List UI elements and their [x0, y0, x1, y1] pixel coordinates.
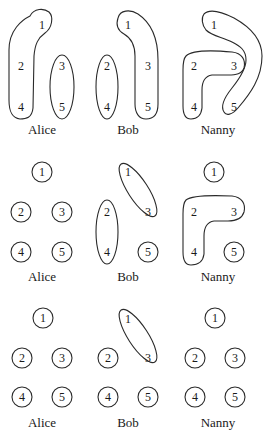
bob-cell-1-3-5	[117, 11, 158, 119]
state-4: 4	[105, 390, 111, 404]
agent-label-alice: Alice	[28, 415, 56, 430]
state-4: 4	[18, 100, 24, 114]
state-4: 4	[18, 245, 24, 259]
state-5: 5	[145, 245, 151, 259]
state-2: 2	[105, 351, 111, 365]
bob-cell-1-3	[113, 305, 164, 368]
agent-label-nanny: Nanny	[201, 415, 236, 430]
state-5: 5	[231, 100, 237, 114]
state-5: 5	[59, 245, 65, 259]
state-1: 1	[125, 165, 131, 179]
nanny-panel-row-2: 1 2 3 4 5 Nanny	[183, 162, 245, 284]
partition-diagram: 1 2 3 4 5 Alice 1 2 3 4 5 Bob 1 2 3 4 5	[0, 0, 272, 440]
state-4: 4	[104, 245, 110, 259]
bob-panel-row-3: 1 2 3 4 5 Bob	[98, 305, 163, 430]
agent-label-alice: Alice	[28, 269, 56, 284]
state-4: 4	[192, 390, 198, 404]
state-3: 3	[145, 205, 151, 219]
state-4: 4	[191, 100, 197, 114]
state-3: 3	[145, 59, 151, 73]
state-1: 1	[125, 18, 131, 32]
state-2: 2	[192, 351, 198, 365]
state-3: 3	[231, 205, 237, 219]
state-1: 1	[211, 165, 217, 179]
state-5: 5	[59, 390, 65, 404]
state-5: 5	[232, 390, 238, 404]
alice-panel-row-1: 1 2 3 4 5 Alice	[9, 9, 74, 137]
state-1: 1	[40, 311, 46, 325]
bob-panel-row-2: 1 2 3 4 5 Bob	[96, 159, 163, 284]
state-3: 3	[59, 59, 65, 73]
state-3: 3	[59, 351, 65, 365]
alice-cell-1-2-4	[9, 9, 52, 119]
nanny-panel-row-3: 1 2 3 4 5 Nanny	[185, 308, 245, 430]
agent-label-bob: Bob	[117, 269, 139, 284]
state-1: 1	[39, 165, 45, 179]
agent-label-nanny: Nanny	[201, 122, 236, 137]
state-1: 1	[125, 312, 131, 326]
state-3: 3	[59, 205, 65, 219]
agent-label-nanny: Nanny	[201, 269, 236, 284]
state-1: 1	[212, 311, 218, 325]
row-2: 1 2 3 4 5 Alice 1 2 3 4 5 Bob 1 2 3	[11, 159, 245, 284]
state-3: 3	[232, 351, 238, 365]
state-5: 5	[231, 245, 237, 259]
bob-panel-row-1: 1 2 3 4 5 Bob	[96, 11, 158, 137]
state-1: 1	[211, 18, 217, 32]
row-3: 1 2 3 4 5 Alice 1 2 3 4 5 Bob 1	[12, 305, 245, 430]
state-1: 1	[39, 18, 45, 32]
agent-label-alice: Alice	[28, 122, 56, 137]
row-1: 1 2 3 4 5 Alice 1 2 3 4 5 Bob 1 2 3 4 5	[9, 9, 262, 137]
state-2: 2	[18, 205, 24, 219]
state-2: 2	[191, 59, 197, 73]
bob-cell-1-3	[113, 159, 164, 222]
alice-panel-row-3: 1 2 3 4 5 Alice	[12, 308, 72, 430]
state-5: 5	[145, 100, 151, 114]
state-4: 4	[19, 390, 25, 404]
state-5: 5	[145, 390, 151, 404]
agent-label-bob: Bob	[117, 415, 139, 430]
state-2: 2	[104, 205, 110, 219]
alice-panel-row-2: 1 2 3 4 5 Alice	[11, 162, 72, 284]
state-3: 3	[231, 59, 237, 73]
state-2: 2	[191, 205, 197, 219]
nanny-panel-row-1: 1 2 3 4 5 Nanny	[183, 11, 262, 137]
state-2: 2	[19, 351, 25, 365]
agent-label-bob: Bob	[117, 122, 139, 137]
state-3: 3	[145, 351, 151, 365]
state-5: 5	[59, 100, 65, 114]
state-4: 4	[191, 245, 197, 259]
state-2: 2	[104, 59, 110, 73]
state-2: 2	[18, 59, 24, 73]
state-4: 4	[104, 100, 110, 114]
